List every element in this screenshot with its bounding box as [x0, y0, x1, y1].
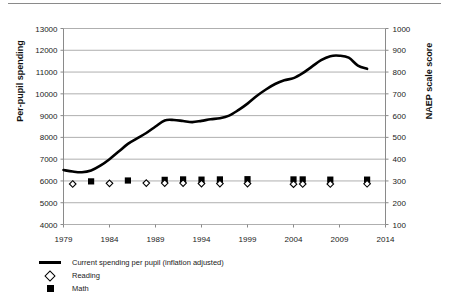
legend-item-spending: Current spending per pupil (inflation ad…	[28, 256, 224, 269]
svg-text:6000: 6000	[40, 177, 58, 186]
svg-text:1999: 1999	[239, 235, 257, 244]
svg-text:2009: 2009	[331, 235, 349, 244]
left-axis-title: Per-pupil spending	[15, 21, 25, 141]
axis-lines-group	[61, 29, 389, 228]
chart-figure: Per-pupil spending NAEP scale score 4000…	[0, 0, 449, 307]
svg-text:2014: 2014	[377, 235, 395, 244]
x-axis-tick-labels: 19791984198919941999200420092014	[55, 235, 395, 244]
right-axis-tick-labels: 1002003004005006007008009001000	[393, 25, 411, 230]
svg-text:700: 700	[393, 90, 407, 99]
svg-text:600: 600	[393, 112, 407, 121]
legend-item-reading: Reading	[28, 269, 224, 282]
svg-text:200: 200	[393, 199, 407, 208]
svg-text:900: 900	[393, 46, 407, 55]
svg-text:1979: 1979	[55, 235, 73, 244]
svg-text:7000: 7000	[40, 155, 58, 164]
gridlines-group	[64, 29, 386, 225]
svg-text:2004: 2004	[285, 235, 303, 244]
svg-text:11000: 11000	[36, 68, 58, 77]
svg-text:800: 800	[393, 68, 407, 77]
svg-text:100: 100	[393, 221, 407, 230]
svg-text:1989: 1989	[147, 235, 165, 244]
right-axis-title: NAEP scale score	[424, 21, 434, 141]
legend-label: Current spending per pupil (inflation ad…	[72, 259, 224, 267]
top-divider-rule	[8, 3, 441, 4]
left-axis-tick-labels: 4000500060007000800090001000011000120001…	[35, 25, 58, 230]
spending-line-series	[64, 56, 368, 173]
svg-text:9000: 9000	[40, 112, 58, 121]
legend-diamond-icon	[28, 272, 72, 280]
legend-label: Math	[72, 285, 89, 293]
legend-label: Reading	[72, 272, 100, 280]
svg-text:5000: 5000	[40, 199, 58, 208]
svg-text:12000: 12000	[35, 46, 58, 55]
svg-text:1000: 1000	[393, 25, 411, 34]
svg-text:1984: 1984	[101, 235, 119, 244]
svg-text:1994: 1994	[193, 235, 211, 244]
svg-text:13000: 13000	[35, 25, 58, 34]
svg-text:400: 400	[393, 155, 407, 164]
chart-legend: Current spending per pupil (inflation ad…	[28, 256, 224, 295]
legend-square-icon	[28, 285, 72, 292]
svg-text:8000: 8000	[40, 133, 58, 142]
svg-text:4000: 4000	[40, 221, 58, 230]
svg-text:10000: 10000	[35, 90, 58, 99]
legend-line-icon	[28, 261, 72, 264]
svg-text:500: 500	[393, 133, 407, 142]
legend-item-math: Math	[28, 282, 224, 295]
svg-text:300: 300	[393, 177, 407, 186]
